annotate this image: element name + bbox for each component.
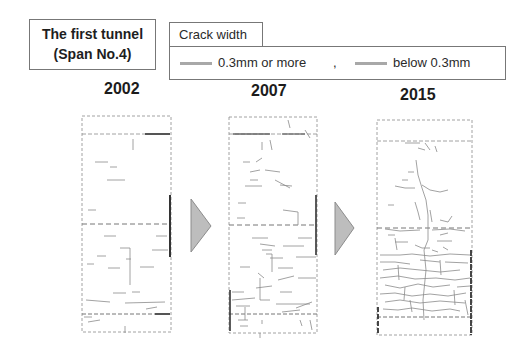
progression-arrow-1 (191, 199, 211, 252)
crack-maps (0, 0, 527, 356)
crack-map-2015 (377, 120, 472, 335)
crack-map-2007 (229, 117, 317, 338)
crack-map-2002 (82, 116, 171, 333)
progression-arrow-2 (335, 202, 354, 255)
